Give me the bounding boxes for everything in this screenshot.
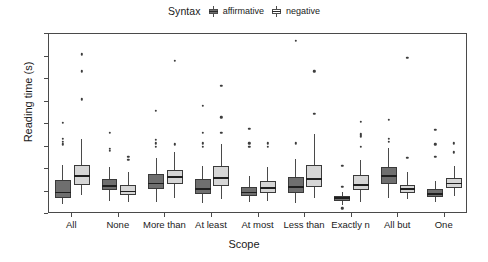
boxplot-iqr-box — [213, 166, 229, 186]
legend-title: Syntax — [168, 5, 201, 17]
boxplot-outlier — [248, 142, 250, 144]
boxplot-iqr-box — [148, 174, 164, 190]
boxplot-outlier — [360, 145, 362, 147]
boxplot-median — [400, 188, 416, 190]
boxplot-outlier — [173, 143, 175, 145]
boxplot-outlier — [313, 70, 315, 72]
boxplot-outlier — [267, 142, 269, 144]
boxplot-outlier — [434, 155, 436, 157]
boxplot-median — [260, 187, 276, 189]
boxplot-outlier — [80, 98, 82, 100]
x-tick-mark — [351, 213, 352, 217]
boxplot-outlier — [434, 143, 436, 145]
boxplot-iqr-box — [288, 177, 304, 193]
x-axis-title: Scope — [0, 238, 488, 250]
boxplot-outlier — [155, 142, 157, 144]
x-tick-mark — [304, 213, 305, 217]
x-tick-mark — [444, 213, 445, 217]
boxplot-iqr-box — [353, 175, 369, 191]
boxplot-outlier — [127, 159, 129, 161]
boxplot-median — [427, 193, 443, 195]
boxplot-outlier — [406, 157, 408, 159]
plot-panel — [48, 33, 467, 213]
boxplot-outlier — [434, 128, 436, 130]
legend-label-negative: negative — [286, 6, 320, 16]
y-tick-mark — [44, 213, 48, 214]
boxplot-outlier — [360, 121, 362, 123]
boxplot-median — [213, 177, 229, 179]
boxplot-median — [353, 184, 369, 186]
boxplot-outlier — [201, 105, 203, 107]
boxplot-median — [381, 175, 397, 177]
boxplot-outlier — [220, 116, 222, 118]
boxplot-outlier — [248, 127, 250, 129]
boxplot-outlier — [173, 60, 175, 62]
boxplot-iqr-box — [55, 180, 71, 198]
boxplot-outlier — [80, 53, 82, 55]
boxplot-outlier — [295, 142, 297, 144]
x-tick-mark — [164, 213, 165, 217]
boxplot-outlier — [201, 145, 203, 147]
legend-entry-affirmative[interactable]: affirmative — [208, 5, 264, 17]
boxplot-outlier — [360, 135, 362, 137]
boxplot-outlier — [406, 56, 408, 58]
boxplot-outlier — [62, 143, 64, 145]
x-tick-mark — [211, 213, 212, 217]
boxplot-outlier — [341, 207, 343, 209]
boxplot-outlier — [295, 40, 297, 42]
legend: Syntax affirmative negative — [0, 3, 488, 19]
x-tick-mark — [118, 213, 119, 217]
boxplot-outlier — [341, 164, 343, 166]
boxplot-outlier — [155, 145, 157, 147]
boxplot-outlier — [108, 150, 110, 152]
legend-label-affirmative: affirmative — [223, 6, 264, 16]
boxplot-outlier — [62, 137, 64, 139]
boxplot-outlier — [127, 155, 129, 157]
boxplot-median — [288, 186, 304, 188]
plot-area — [49, 34, 466, 212]
boxplot-outlier — [453, 142, 455, 144]
x-tick-mark — [397, 213, 398, 217]
boxplot-median — [195, 188, 211, 190]
boxplot-outlier — [388, 141, 390, 143]
x-tick-mark — [258, 213, 259, 217]
boxplot-outlier — [341, 186, 343, 188]
boxplot-outlier — [155, 109, 157, 111]
x-tick-mark — [71, 213, 72, 217]
boxplot-outlier — [388, 118, 390, 120]
boxplot-median — [241, 192, 257, 194]
boxplot-median — [167, 176, 183, 178]
boxplot-outlier — [220, 132, 222, 134]
boxplot-key-negative-icon — [271, 5, 282, 17]
boxplot-outlier — [220, 85, 222, 87]
boxplot-median — [120, 191, 136, 193]
boxplot-median — [334, 197, 350, 199]
boxplot-figure: Syntax affirmative negative Reading time… — [0, 0, 488, 262]
boxplot-outlier — [453, 151, 455, 153]
boxplot-median — [306, 178, 322, 180]
boxplot-median — [102, 185, 118, 187]
boxplot-outlier — [313, 113, 315, 115]
boxplot-outlier — [62, 122, 64, 124]
boxplot-median — [446, 183, 462, 185]
x-tick-label: One — [399, 219, 488, 230]
boxplot-outlier — [267, 145, 269, 147]
boxplot-outlier — [80, 70, 82, 72]
boxplot-iqr-box — [195, 179, 211, 194]
boxplot-outlier — [155, 139, 157, 141]
boxplot-outlier — [108, 132, 110, 134]
boxplot-median — [55, 192, 71, 194]
boxplot-iqr-box — [306, 165, 322, 188]
y-axis-title: Reading time (s) — [22, 32, 34, 172]
boxplot-median — [74, 175, 90, 177]
boxplot-key-affirmative-icon — [208, 5, 219, 17]
boxplot-outlier — [201, 132, 203, 134]
boxplot-outlier — [388, 137, 390, 139]
boxplot-outlier — [201, 142, 203, 144]
legend-entry-negative[interactable]: negative — [271, 5, 320, 17]
boxplot-median — [148, 183, 164, 185]
boxplot-outlier — [248, 145, 250, 147]
